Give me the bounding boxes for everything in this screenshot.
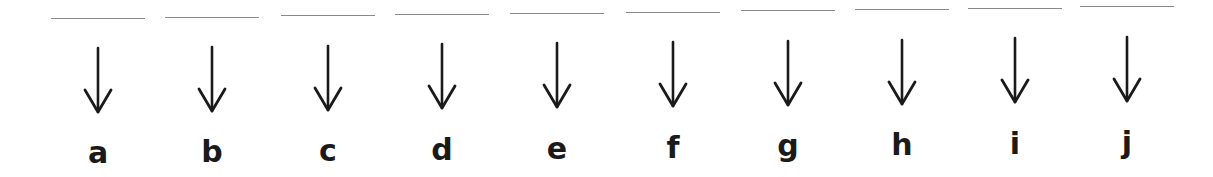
worksheet-column: h	[854, 0, 950, 177]
answer-blank-line[interactable]	[855, 9, 949, 10]
letter-label: b	[164, 137, 260, 167]
letter-label: g	[740, 131, 836, 161]
letter-label: f	[625, 133, 721, 163]
answer-blank-line[interactable]	[741, 10, 835, 11]
letter-label: d	[394, 135, 490, 165]
answer-blank-line[interactable]	[968, 8, 1062, 9]
worksheet-column: i	[967, 0, 1063, 177]
worksheet-column: a	[50, 0, 146, 177]
worksheet-column: e	[509, 0, 605, 177]
answer-blank-line[interactable]	[281, 15, 375, 16]
answer-blank-line[interactable]	[626, 12, 720, 13]
worksheet-column: f	[625, 0, 721, 177]
arrow-down-icon	[192, 45, 232, 115]
arrow-down-icon	[882, 38, 922, 108]
arrow-down-icon	[995, 36, 1035, 106]
arrow-down-icon	[537, 41, 577, 111]
letter-label: a	[50, 138, 146, 168]
worksheet-column: c	[280, 0, 376, 177]
worksheet-column: g	[740, 0, 836, 177]
letter-label: j	[1079, 128, 1175, 158]
arrow-down-icon	[78, 46, 118, 116]
answer-blank-line[interactable]	[165, 17, 259, 18]
letter-label: c	[280, 136, 376, 166]
letter-label: h	[854, 130, 950, 160]
arrow-down-icon	[1107, 35, 1147, 105]
worksheet-column: b	[164, 0, 260, 177]
answer-blank-line[interactable]	[510, 13, 604, 14]
answer-blank-line[interactable]	[395, 14, 489, 15]
letter-label: i	[967, 129, 1063, 159]
worksheet-column: j	[1079, 0, 1175, 177]
answer-blank-line[interactable]	[1080, 6, 1174, 7]
arrow-down-icon	[768, 39, 808, 109]
arrow-down-icon	[308, 44, 348, 114]
letter-label: e	[509, 134, 605, 164]
answer-blank-line[interactable]	[51, 18, 145, 19]
arrow-down-icon	[422, 42, 462, 112]
arrow-down-icon	[653, 40, 693, 110]
worksheet-column: d	[394, 0, 490, 177]
